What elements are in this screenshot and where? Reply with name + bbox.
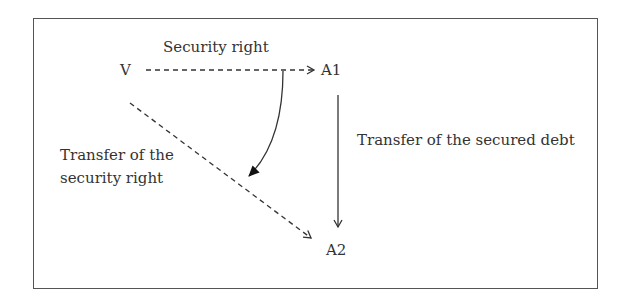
node-v: V xyxy=(120,61,131,80)
label-transfer-security-right-line2: security right xyxy=(60,169,163,188)
label-transfer-secured-debt: Transfer of the secured debt xyxy=(357,131,575,150)
node-a1: A1 xyxy=(321,61,341,80)
label-security-right: Security right xyxy=(163,38,269,57)
node-a2: A2 xyxy=(326,241,346,260)
edge-curved-transfer xyxy=(249,71,283,176)
label-transfer-security-right-line1: Transfer of the xyxy=(60,146,174,165)
